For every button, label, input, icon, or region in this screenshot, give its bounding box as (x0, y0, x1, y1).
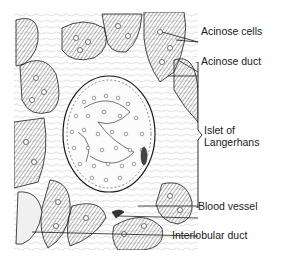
tissue-illustration (14, 12, 198, 250)
label-blood-vessel: Blood vessel (198, 200, 258, 212)
label-acinose-duct: Acinose duct (201, 55, 261, 67)
islet-bracket (194, 62, 204, 208)
islet (63, 76, 155, 192)
label-acinose-cells: Acinose cells (201, 25, 262, 37)
label-islet-line2: Langerhans (204, 136, 259, 148)
label-interlobular-duct: Interlobular duct (172, 229, 247, 241)
label-islet-line1: Islet of (204, 124, 235, 136)
pancreas-diagram: Acinose cells Acinose duct Islet of Lang… (0, 0, 281, 261)
